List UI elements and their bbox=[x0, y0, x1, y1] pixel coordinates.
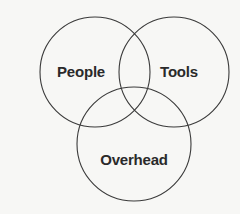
people-label: People bbox=[57, 63, 105, 80]
tools-label: Tools bbox=[160, 63, 198, 80]
venn-diagram bbox=[0, 0, 240, 214]
overhead-label: Overhead bbox=[100, 151, 168, 168]
overhead-circle bbox=[77, 87, 191, 201]
